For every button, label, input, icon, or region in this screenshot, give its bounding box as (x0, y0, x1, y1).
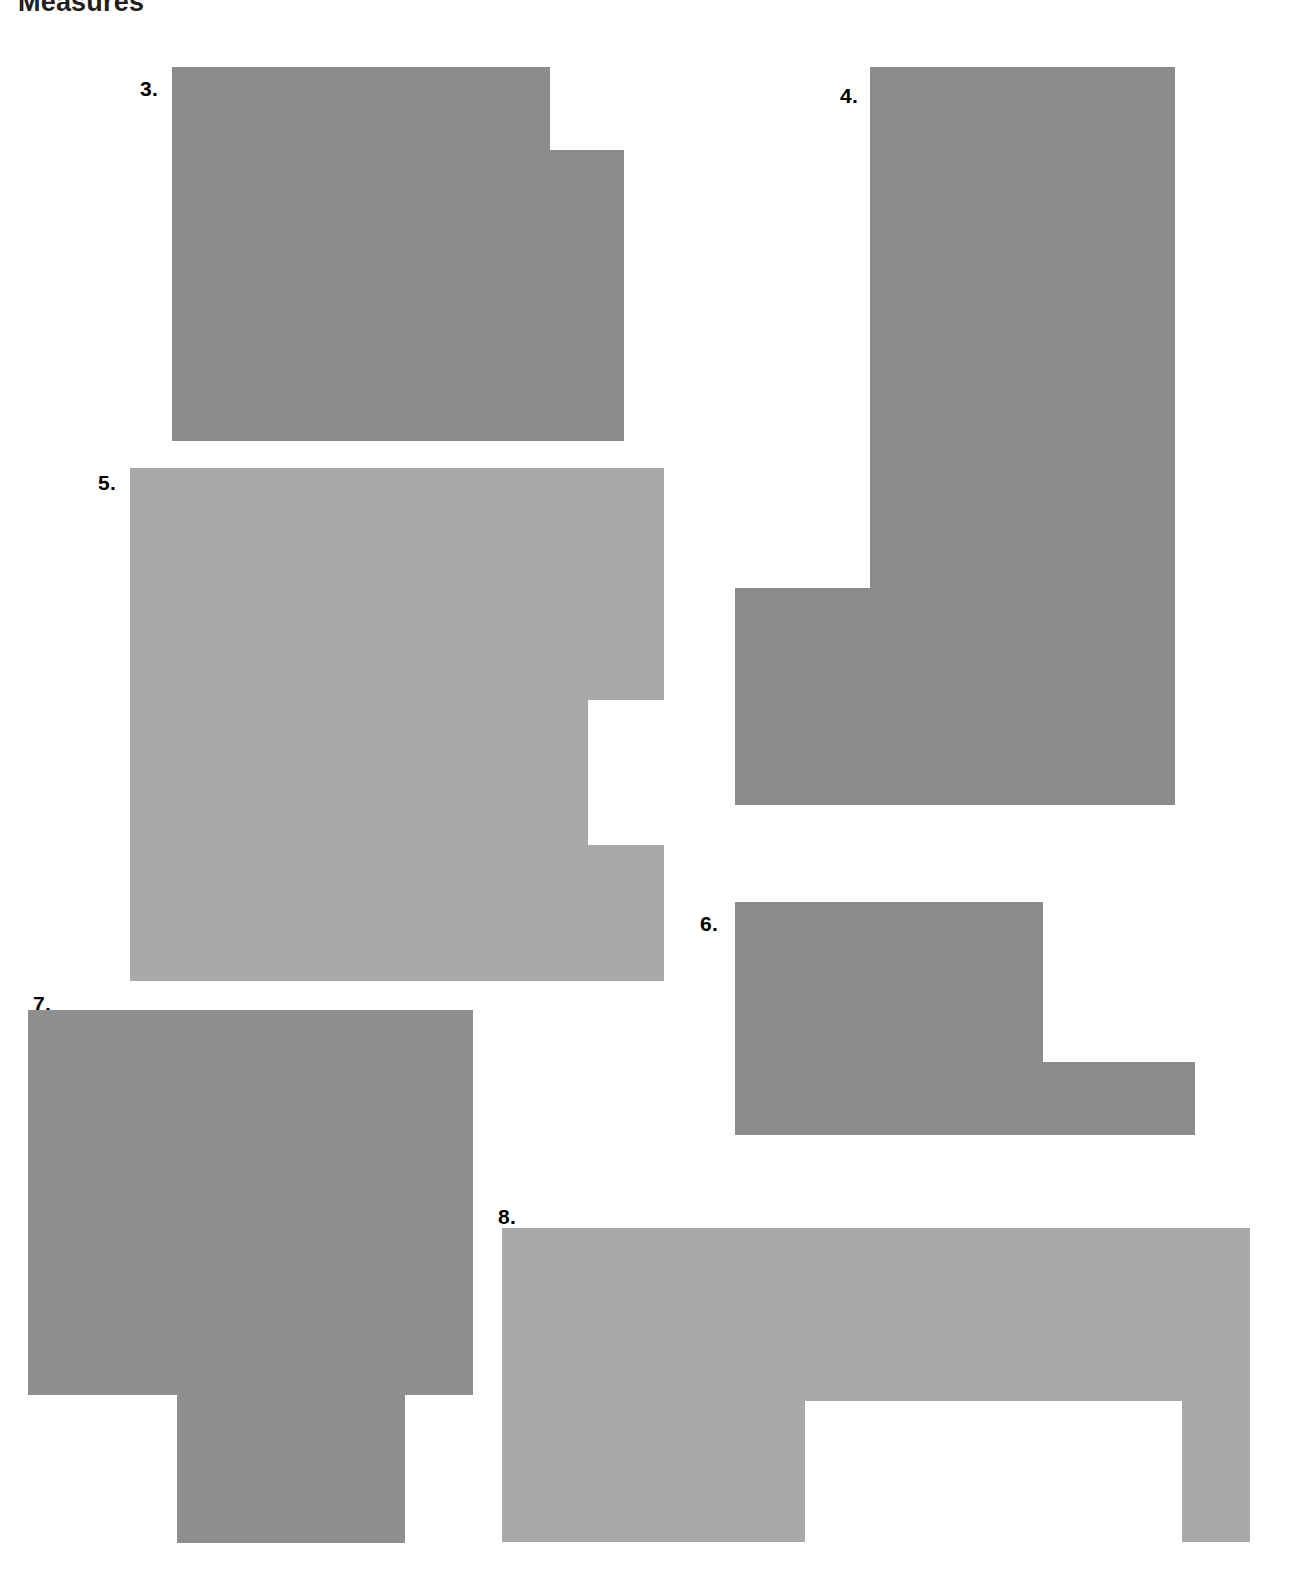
shape-8 (502, 1228, 1250, 1542)
page-title: Measures (18, 0, 144, 18)
shape-6-svg (735, 902, 1195, 1135)
shape-5-polygon (130, 468, 664, 981)
shape-7 (28, 1010, 473, 1543)
figure-label-3: 3. (140, 78, 158, 99)
shape-6-polygon (735, 902, 1195, 1135)
shape-6 (735, 902, 1195, 1135)
shape-5 (130, 468, 664, 981)
shape-3 (172, 67, 624, 441)
shape-3-polygon (172, 67, 624, 441)
figure-label-8: 8. (498, 1206, 516, 1227)
shape-7-polygon (28, 1010, 473, 1543)
figure-label-5: 5. (98, 472, 116, 493)
shape-5-svg (130, 468, 664, 981)
shape-4-svg (735, 67, 1175, 805)
shape-8-svg (502, 1228, 1250, 1542)
shape-4 (735, 67, 1175, 805)
shape-4-polygon (735, 67, 1175, 805)
worksheet-page: Measures 3. 4. 5. 6. 7. 8. (0, 0, 1306, 1587)
figure-label-6: 6. (700, 913, 718, 934)
shape-3-svg (172, 67, 624, 441)
shape-7-svg (28, 1010, 473, 1543)
shape-8-polygon (502, 1228, 1250, 1542)
